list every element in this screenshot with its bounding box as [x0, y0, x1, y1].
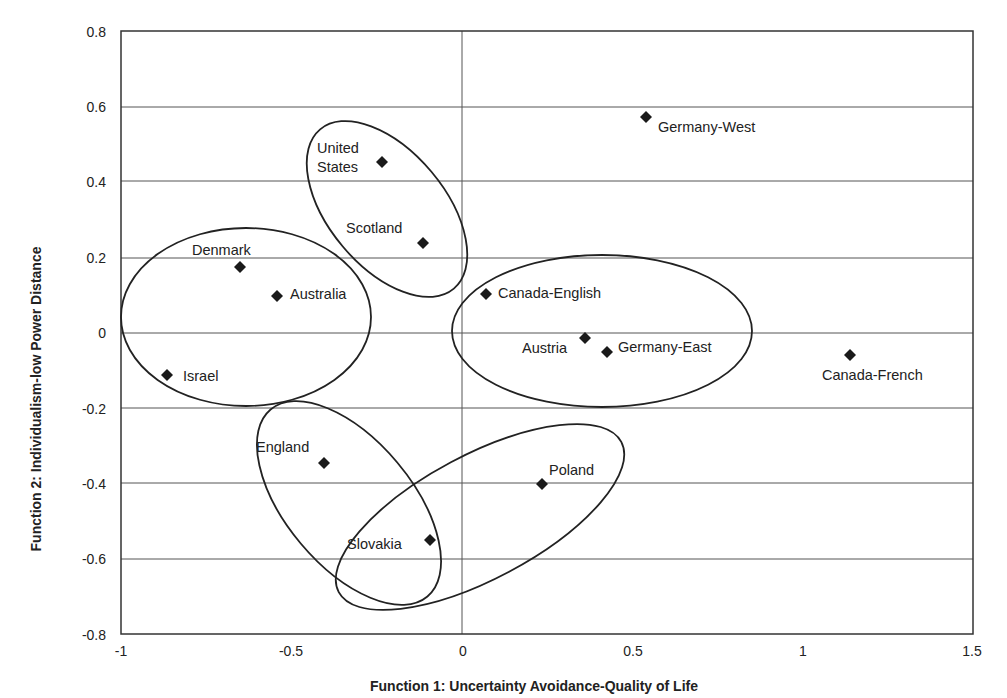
label-israel: Israel [183, 368, 218, 384]
point-scotland [417, 237, 429, 249]
y-tick: 0 [98, 325, 106, 341]
point-slovakia [424, 534, 436, 546]
x-tick: 1.5 [962, 643, 982, 659]
point-poland [536, 478, 548, 490]
gridlines [121, 107, 973, 559]
cluster-canada-austria-germany [452, 255, 752, 407]
label-poland: Poland [549, 462, 594, 478]
label-canada-french: Canada-French [822, 367, 923, 383]
y-tick: 0.2 [87, 250, 107, 266]
y-tick: 0.8 [87, 24, 107, 40]
x-tick: 1 [799, 643, 807, 659]
label-england: England [256, 439, 309, 455]
label-austria: Austria [522, 340, 568, 356]
label-germany-west: Germany-West [658, 119, 755, 135]
x-tick: -0.5 [279, 643, 303, 659]
scatter-chart: 0.8 0.6 0.4 0.2 0 -0.2 -0.4 -0.6 -0.8 -1… [0, 0, 1007, 698]
cluster-slovakia-poland [310, 387, 651, 647]
point-israel [161, 369, 173, 381]
x-axis-title: Function 1: Uncertainty Avoidance-Qualit… [370, 678, 698, 694]
label-canada-english: Canada-English [498, 285, 601, 301]
y-tick: -0.8 [82, 627, 106, 643]
point-labels: Germany-West United States Scotland Denm… [183, 119, 923, 552]
y-axis-ticks: 0.8 0.6 0.4 0.2 0 -0.2 -0.4 -0.6 -0.8 [82, 24, 106, 643]
label-australia: Australia [290, 286, 347, 302]
y-tick: 0.4 [87, 174, 107, 190]
x-axis-ticks: -1 -0.5 0 0.5 1 1.5 [115, 643, 982, 659]
point-germany-west [640, 111, 652, 123]
point-australia [271, 290, 283, 302]
label-germany-east: Germany-East [618, 339, 711, 355]
point-united-states [376, 156, 388, 168]
point-canada-french [844, 349, 856, 361]
y-tick: 0.6 [87, 99, 107, 115]
y-axis-title: Function 2: Individualism-low Power Dist… [28, 246, 44, 551]
y-tick: -0.4 [82, 476, 106, 492]
point-austria [579, 332, 591, 344]
label-united-states-line1: United [317, 140, 359, 156]
x-tick: -1 [115, 643, 128, 659]
point-england [318, 457, 330, 469]
point-germany-east [601, 346, 613, 358]
point-canada-english [480, 288, 492, 300]
y-tick: -0.6 [82, 551, 106, 567]
x-tick: 0 [459, 643, 467, 659]
label-slovakia: Slovakia [347, 536, 403, 552]
x-tick: 0.5 [623, 643, 643, 659]
cluster-england-slovakia [222, 369, 475, 637]
label-denmark: Denmark [192, 242, 252, 258]
label-united-states-line2: States [317, 159, 358, 175]
point-denmark [234, 261, 246, 273]
y-tick: -0.2 [82, 401, 106, 417]
label-scotland: Scotland [346, 220, 402, 236]
